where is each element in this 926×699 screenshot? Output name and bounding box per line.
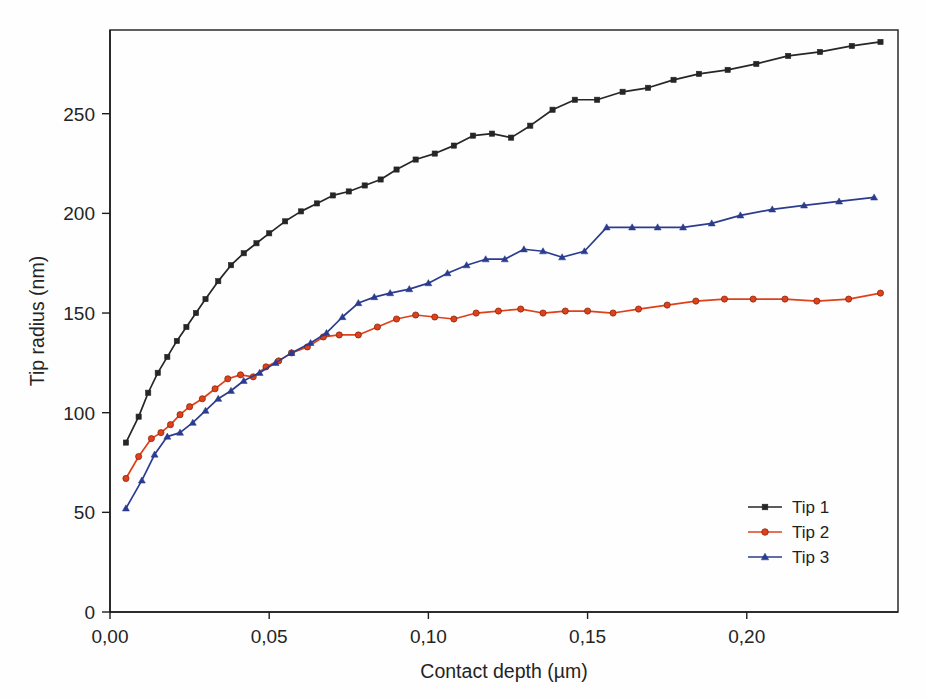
data-point-marker [378,177,383,182]
data-point-marker [620,89,625,94]
chart-legend: Tip 1Tip 2Tip 3 [748,498,829,567]
data-point-marker [254,241,259,246]
data-point-marker [158,430,164,436]
data-point-marker [849,43,854,48]
data-point-marker [762,529,769,536]
data-point-marker [750,296,756,302]
data-point-marker [451,143,456,148]
legend-item-tip-1[interactable]: Tip 1 [748,498,829,517]
data-point-marker [212,386,218,392]
data-point-marker [177,412,183,418]
y-tick-label: 100 [63,403,95,424]
x-axis-ticks: 0,000,050,100,150,20 [92,612,766,647]
x-tick-label: 0,10 [410,626,447,647]
data-point-marker [595,97,600,102]
data-point-marker [148,435,154,441]
data-point-marker [283,219,288,224]
data-point-marker [193,310,198,315]
data-point-marker [754,61,759,66]
data-point-marker [814,298,820,304]
data-point-marker [540,310,546,316]
legend-item-tip-3[interactable]: Tip 3 [748,548,829,567]
y-tick-label: 250 [63,104,95,125]
data-point-marker [199,396,205,402]
data-point-marker [693,298,699,304]
data-point-marker [550,107,555,112]
series-tip-3 [122,194,877,511]
data-point-marker [362,183,367,188]
data-point-marker [123,440,128,445]
data-point-marker [225,376,231,382]
series-tip-1 [123,39,883,445]
data-point-marker [610,310,616,316]
data-point-marker [495,308,501,314]
data-point-marker [136,453,142,459]
data-point-marker [432,151,437,156]
data-point-marker [489,131,494,136]
data-point-marker [846,296,852,302]
data-point-marker [298,209,303,214]
data-point-marker [528,123,533,128]
y-axis-ticks: 050100150200250 [63,104,110,623]
y-tick-label: 150 [63,303,95,324]
data-point-marker [123,475,129,481]
data-point-marker [314,201,319,206]
legend-label: Tip 1 [792,498,829,517]
data-series-group [122,39,883,511]
data-point-marker [413,157,418,162]
data-point-marker [394,167,399,172]
data-point-marker [562,308,568,314]
data-point-marker [518,306,524,312]
data-point-marker [473,310,479,316]
data-point-marker [671,77,676,82]
data-point-marker [877,290,883,296]
legend-item-tip-2[interactable]: Tip 2 [748,523,829,542]
series-line [126,42,881,443]
data-point-marker [645,85,650,90]
data-point-marker [786,53,791,58]
data-point-marker [237,372,243,378]
data-point-marker [374,324,380,330]
line-chart: 0,000,050,100,150,20 050100150200250 Tip… [0,0,926,699]
y-axis-title: Tip radius (nm) [26,256,48,386]
legend-label: Tip 2 [792,523,829,542]
legend-label: Tip 3 [792,548,829,567]
y-tick-label: 0 [84,602,95,623]
data-point-marker [878,39,883,44]
data-point-marker [664,302,670,308]
data-point-marker [635,306,641,312]
x-tick-label: 0,15 [569,626,606,647]
data-point-marker [696,71,701,76]
data-point-marker [355,332,361,338]
x-tick-label: 0,05 [251,626,288,647]
data-point-marker [330,193,335,198]
data-point-marker [165,354,170,359]
plot-frame [110,30,898,612]
y-tick-label: 200 [63,203,95,224]
data-point-marker [146,390,151,395]
data-point-marker [432,314,438,320]
data-point-marker [174,338,179,343]
data-point-marker [762,504,768,510]
data-point-marker [509,135,514,140]
x-tick-label: 0,20 [728,626,765,647]
data-point-marker [721,296,727,302]
data-point-marker [470,133,475,138]
chart-figure: 0,000,050,100,150,20 050100150200250 Tip… [0,0,926,699]
data-point-marker [216,279,221,284]
data-point-marker [393,316,399,322]
data-point-marker [336,332,342,338]
data-point-marker [138,477,145,483]
x-axis-title: Contact depth (µm) [420,660,587,682]
data-point-marker [267,231,272,236]
data-point-marker [346,189,351,194]
data-point-marker [572,97,577,102]
data-point-marker [215,395,222,401]
data-point-marker [136,414,141,419]
x-tick-label: 0,00 [92,626,129,647]
data-point-marker [167,422,173,428]
data-point-marker [817,49,822,54]
data-point-marker [203,296,208,301]
data-point-marker [782,296,788,302]
series-line [126,293,881,478]
